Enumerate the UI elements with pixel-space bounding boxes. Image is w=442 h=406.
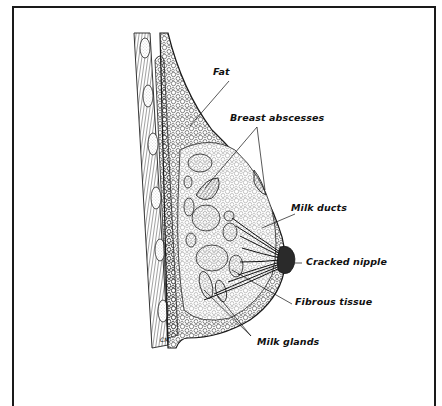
nipple	[277, 246, 295, 273]
label-fat: Fat	[213, 66, 230, 77]
label-cracked-nipple: Cracked nipple	[306, 256, 387, 267]
label-milk-glands: Milk glands	[257, 336, 319, 347]
label-milk-ducts: Milk ducts	[291, 202, 347, 213]
artist-signature: CM	[160, 336, 170, 343]
label-breast-abscesses: Breast abscesses	[230, 112, 324, 123]
label-fibrous-tissue: Fibrous tissue	[295, 296, 372, 307]
